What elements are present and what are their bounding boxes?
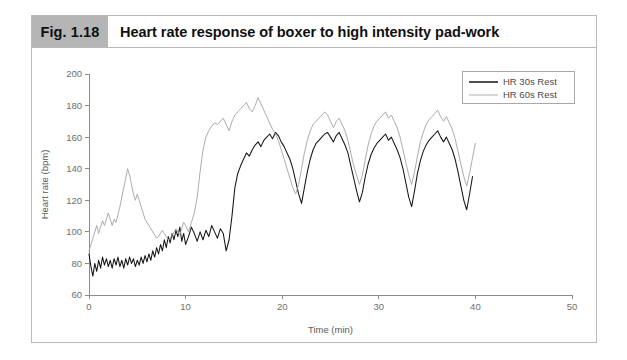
y-tick-label: 160 [66,132,82,143]
y-tick-label: 100 [66,226,82,237]
data-series-group [89,98,475,276]
y-axis: 6080100120140160180200 Heart rate (bpm) [39,68,89,300]
y-tick-label: 80 [71,258,82,269]
x-tick-label: 50 [567,301,578,312]
y-tick-group: 6080100120140160180200 [66,68,89,300]
y-axis-title: Heart rate (bpm) [39,150,50,220]
x-tick-group: 01020304050 [86,295,577,312]
x-axis: 01020304050 Time (min) [86,295,577,335]
x-tick-label: 10 [180,301,191,312]
chart-legend: HR 30s RestHR 60s Rest [462,71,574,103]
y-tick-label: 180 [66,100,82,111]
y-tick-label: 140 [66,163,82,174]
legend-label-2: HR 60s Rest [503,89,557,100]
figure-title: Heart rate response of boxer to high int… [108,16,596,47]
chart-area: 6080100120140160180200 Heart rate (bpm) … [32,48,596,343]
x-tick-label: 20 [277,301,288,312]
y-tick-label: 60 [71,289,82,300]
figure-container: Fig. 1.18 Heart rate response of boxer t… [31,15,597,343]
series-line-1 [89,131,473,276]
x-tick-label: 30 [374,301,385,312]
x-tick-label: 40 [470,301,481,312]
figure-caption-bar: Fig. 1.18 Heart rate response of boxer t… [32,16,596,48]
x-tick-label: 0 [86,301,91,312]
figure-number-label: Fig. 1.18 [32,16,108,47]
x-axis-title: Time (min) [308,324,353,335]
y-tick-label: 120 [66,195,82,206]
legend-label-1: HR 30s Rest [503,76,557,87]
heart-rate-line-chart: 6080100120140160180200 Heart rate (bpm) … [32,48,596,343]
y-tick-label: 200 [66,68,82,79]
